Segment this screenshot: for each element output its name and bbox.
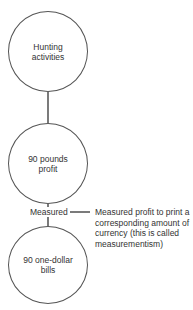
node-bills: 90 one-dollar bills xyxy=(8,226,88,304)
node-hunting-activities: Hunting activities xyxy=(8,11,88,92)
node-label: 90 one-dollar bills xyxy=(23,255,73,275)
node-label: 90 pounds profit xyxy=(26,154,70,174)
edge-label-measured: Measured xyxy=(30,207,68,217)
node-profit: 90 pounds profit xyxy=(8,123,88,204)
node-label: Hunting activities xyxy=(28,42,68,62)
annotation-measurementism: Measured profit to print a corresponding… xyxy=(95,207,193,249)
